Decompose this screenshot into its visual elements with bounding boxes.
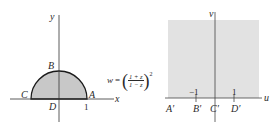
tick-label-minus-one: −1 xyxy=(189,87,199,97)
left-paren: ( xyxy=(122,70,128,90)
v-axis-label: v xyxy=(209,8,214,19)
upper-half-plane-region xyxy=(168,20,259,98)
formula-lhs: w xyxy=(107,75,113,85)
w-plane-panel: v u −1 1 A′ B′ C′ D′ xyxy=(165,8,269,122)
point-c-prime-label: C′ xyxy=(210,103,220,114)
point-b-prime-label: B′ xyxy=(193,103,202,114)
point-d-prime-label: D′ xyxy=(230,103,241,114)
z-plane-panel: y x B C A D 1 xyxy=(10,11,120,122)
tick-label-one: 1 xyxy=(84,102,89,112)
formula-denominator: 1 − z xyxy=(129,81,142,88)
y-axis-label: y xyxy=(49,11,55,22)
point-a-label: A xyxy=(88,89,96,100)
formula-numerator: 1 + z xyxy=(128,73,143,81)
right-paren: ) xyxy=(144,70,150,90)
point-a-prime-label: A′ xyxy=(165,103,175,114)
formula-fraction: 1 + z 1 − z xyxy=(128,73,143,88)
point-d-label: D xyxy=(48,101,57,112)
formula-exponent: 2 xyxy=(150,71,153,77)
mapping-formula: w = ( 1 + z 1 − z ) 2 xyxy=(107,71,153,89)
conformal-map-figure: y x B C A D 1 v u −1 1 A′ B′ C′ D′ xyxy=(0,0,275,131)
formula-equals: = xyxy=(115,75,120,85)
point-c-label: C xyxy=(21,89,28,100)
u-axis-label: u xyxy=(264,92,269,103)
tick-label-one: 1 xyxy=(232,87,237,97)
point-b-label: B xyxy=(48,60,54,71)
x-axis-label: x xyxy=(114,93,120,104)
